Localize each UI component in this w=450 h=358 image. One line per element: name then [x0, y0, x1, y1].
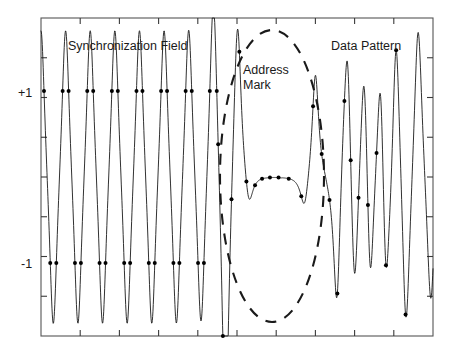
sample-dot [67, 89, 71, 93]
sample-dot [134, 89, 138, 93]
sample-dot [342, 99, 346, 103]
sample-dot [366, 203, 370, 207]
figure-canvas: Synchronization Field Address Mark Data … [0, 0, 450, 358]
sample-dot [384, 263, 388, 267]
sample-dot [153, 261, 157, 265]
sample-dot [190, 89, 194, 93]
sample-dot [404, 313, 408, 317]
sample-dot [253, 183, 257, 187]
sample-dot [216, 142, 220, 146]
sample-dot [171, 261, 175, 265]
y-axis-label-minus-one: -1 [21, 257, 32, 271]
y-axis-label-plus-one: +1 [18, 86, 32, 100]
label-synchronization-field: Synchronization Field [68, 39, 188, 54]
label-address-mark-line2: Mark [243, 78, 271, 93]
sample-dot [208, 89, 212, 93]
sample-dot [61, 89, 65, 93]
sample-dot [215, 89, 219, 93]
sample-dot [159, 89, 163, 93]
x-axis-ticks-top [80, 18, 394, 24]
sample-dot [177, 261, 181, 265]
sample-dot [73, 261, 77, 265]
sample-dot [328, 198, 332, 202]
sample-dot [357, 196, 361, 200]
sample-dot [268, 176, 272, 180]
sample-dot [147, 261, 151, 265]
sample-dot [42, 89, 46, 93]
sample-dot [140, 89, 144, 93]
sample-dot [311, 104, 315, 108]
sample-dot [48, 261, 52, 265]
sample-dot [260, 177, 264, 181]
sample-dot [202, 261, 206, 265]
sample-dot [287, 177, 291, 181]
label-data-pattern: Data Pattern [331, 39, 401, 54]
sample-dot [165, 89, 169, 93]
sample-dot [128, 261, 132, 265]
sample-dot [54, 261, 58, 265]
sample-dot [230, 197, 234, 201]
sample-dot [349, 158, 353, 162]
sample-dot [277, 176, 281, 180]
sample-dot [110, 89, 114, 93]
sample-dot [335, 291, 339, 295]
label-address-mark-line1: Address [243, 63, 289, 78]
sample-dot [91, 89, 95, 93]
sample-dot [116, 89, 120, 93]
sample-dot [375, 151, 379, 155]
sample-dot [237, 50, 241, 54]
sample-dot [320, 152, 324, 156]
sample-dot [98, 261, 102, 265]
sample-dot [85, 89, 89, 93]
sample-dot [196, 261, 200, 265]
sample-dot [79, 261, 83, 265]
sample-dot [104, 261, 108, 265]
sample-dot [221, 334, 225, 338]
x-axis-ticks [80, 330, 394, 336]
sample-dot [244, 179, 248, 183]
sample-dot [184, 89, 188, 93]
sample-dot [299, 194, 303, 198]
sample-dot [122, 261, 126, 265]
